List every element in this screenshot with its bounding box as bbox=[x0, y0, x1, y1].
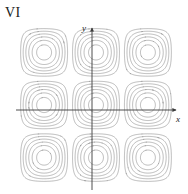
contour-line bbox=[37, 45, 52, 60]
contour-line bbox=[26, 139, 62, 176]
contour-line bbox=[84, 145, 108, 169]
contour-line bbox=[23, 84, 65, 126]
contour-line bbox=[32, 40, 56, 64]
contour-line bbox=[32, 145, 56, 169]
x-axis-label: x bbox=[175, 114, 180, 124]
y-axis-label: y bbox=[81, 23, 86, 33]
contour-lines bbox=[21, 29, 172, 182]
contour-line bbox=[32, 93, 56, 117]
contour-line bbox=[29, 142, 60, 173]
contour-line bbox=[23, 136, 65, 178]
contour-line bbox=[89, 45, 104, 60]
contour-line bbox=[136, 93, 160, 117]
contour-line bbox=[81, 37, 112, 68]
contour-line bbox=[39, 89, 56, 95]
contour-line bbox=[89, 150, 104, 165]
contour-line bbox=[127, 84, 169, 126]
contour-line bbox=[39, 115, 56, 121]
contour-line bbox=[127, 34, 169, 74]
contour-line bbox=[29, 37, 60, 68]
axes-group bbox=[16, 28, 176, 190]
contour-line bbox=[37, 150, 52, 165]
contour-line bbox=[81, 89, 112, 120]
contour-line bbox=[26, 87, 62, 124]
contour-line bbox=[85, 181, 107, 182]
contour-line bbox=[133, 37, 164, 68]
contour-line bbox=[153, 90, 163, 102]
contour-line bbox=[140, 45, 155, 60]
contour-line bbox=[133, 89, 153, 114]
contour-plot-canvas: x y bbox=[0, 0, 188, 194]
contour-line bbox=[84, 40, 108, 64]
contour-line bbox=[135, 102, 163, 120]
contour-line bbox=[57, 95, 60, 115]
contour-line bbox=[84, 93, 108, 117]
contour-line bbox=[130, 139, 166, 176]
contour-line bbox=[75, 136, 117, 178]
contour-line bbox=[133, 142, 164, 173]
contour-plot-figure: VI x y bbox=[0, 0, 188, 194]
contour-line bbox=[78, 34, 114, 71]
contour-line bbox=[81, 143, 112, 173]
contour-line bbox=[29, 90, 39, 102]
contour-line bbox=[140, 150, 155, 165]
contour-line bbox=[136, 145, 160, 169]
contour-line bbox=[78, 87, 114, 124]
contour-line bbox=[130, 87, 166, 124]
contour-line bbox=[130, 34, 166, 71]
contour-line bbox=[75, 84, 117, 126]
contour-line bbox=[136, 40, 160, 64]
contour-line bbox=[26, 34, 62, 71]
